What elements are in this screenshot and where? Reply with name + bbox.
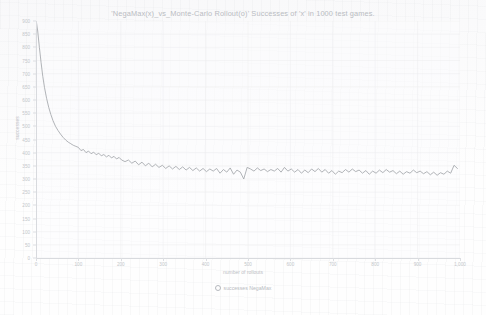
x-tick-label: 300 bbox=[159, 262, 167, 267]
x-tick-label: 900 bbox=[414, 262, 422, 267]
x-tick-label: 0 bbox=[35, 262, 38, 267]
y-axis-title: successes bbox=[14, 103, 20, 153]
x-tick-mark bbox=[206, 258, 207, 261]
x-tick-label: 600 bbox=[287, 262, 295, 267]
x-tick-label: 400 bbox=[202, 262, 210, 267]
legend-circle-icon bbox=[215, 285, 221, 291]
x-tick-mark bbox=[375, 258, 376, 261]
x-tick-mark bbox=[333, 258, 334, 261]
chart-figure: 'NegaMax(x)_vs_Monte-Carlo Rollout(o)' S… bbox=[0, 0, 486, 315]
x-axis-tick-labels: 01002003004005006007008009001,000 bbox=[0, 0, 486, 315]
x-tick-mark bbox=[418, 258, 419, 261]
x-tick-mark bbox=[460, 258, 461, 261]
x-tick-mark bbox=[248, 258, 249, 261]
x-tick-mark bbox=[121, 258, 122, 261]
x-tick-mark bbox=[78, 258, 79, 261]
x-tick-label: 200 bbox=[117, 262, 125, 267]
chart-legend: successes NegaMax bbox=[0, 285, 486, 291]
x-tick-label: 500 bbox=[244, 262, 252, 267]
x-tick-label: 700 bbox=[329, 262, 337, 267]
legend-label-negamax: successes NegaMax bbox=[224, 285, 272, 291]
x-tick-label: 1,000 bbox=[454, 262, 466, 267]
x-tick-label: 800 bbox=[371, 262, 379, 267]
x-tick-label: 100 bbox=[75, 262, 83, 267]
x-tick-mark bbox=[36, 258, 37, 261]
x-tick-mark bbox=[290, 258, 291, 261]
x-axis-title: number of rollouts bbox=[0, 269, 486, 275]
x-tick-mark bbox=[163, 258, 164, 261]
